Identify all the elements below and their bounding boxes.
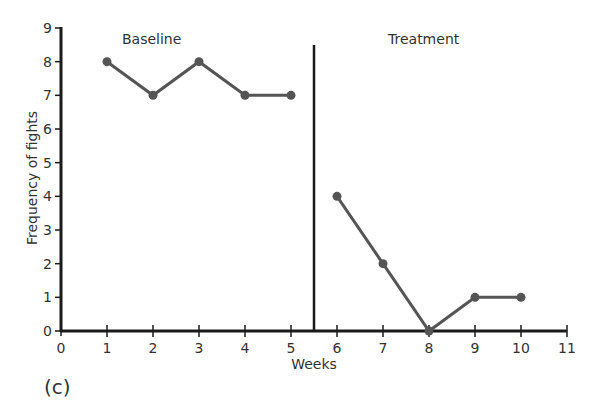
data-point-marker xyxy=(287,91,296,100)
x-tick-label: 10 xyxy=(512,340,530,356)
treatment-phase-label: Treatment xyxy=(387,31,460,47)
y-tick-label: 6 xyxy=(43,121,52,137)
y-axis-ticks: 0123456789 xyxy=(43,20,61,339)
data-point-marker xyxy=(195,57,204,66)
y-tick-label: 9 xyxy=(43,20,52,36)
x-tick-label: 8 xyxy=(425,340,434,356)
y-tick-label: 4 xyxy=(43,188,52,204)
single-case-design-chart: 0123456789 01234567891011 Baseline Treat… xyxy=(0,0,597,420)
x-axis-title: Weeks xyxy=(291,356,337,372)
y-tick-label: 8 xyxy=(43,54,52,70)
series-line-baseline xyxy=(107,62,291,96)
data-point-marker xyxy=(103,57,112,66)
data-point-marker xyxy=(241,91,250,100)
y-tick-label: 1 xyxy=(43,289,52,305)
x-tick-label: 1 xyxy=(103,340,112,356)
y-tick-label: 5 xyxy=(43,155,52,171)
data-point-marker xyxy=(425,327,434,336)
data-point-marker xyxy=(149,91,158,100)
y-tick-label: 2 xyxy=(43,256,52,272)
x-tick-label: 9 xyxy=(471,340,480,356)
x-tick-label: 2 xyxy=(149,340,158,356)
x-tick-label: 6 xyxy=(333,340,342,356)
x-tick-label: 11 xyxy=(558,340,576,356)
data-point-marker xyxy=(471,293,480,302)
series-line-treatment xyxy=(337,196,521,331)
x-tick-label: 7 xyxy=(379,340,388,356)
y-tick-label: 3 xyxy=(43,222,52,238)
data-point-marker xyxy=(517,293,526,302)
data-point-marker xyxy=(333,192,342,201)
data-point-marker xyxy=(379,259,388,268)
x-tick-label: 4 xyxy=(241,340,250,356)
baseline-phase-label: Baseline xyxy=(122,31,181,47)
y-tick-label: 0 xyxy=(43,323,52,339)
y-tick-label: 7 xyxy=(43,87,52,103)
x-tick-label: 3 xyxy=(195,340,204,356)
panel-label: (c) xyxy=(44,375,71,399)
y-axis-title: Frequency of fights xyxy=(24,111,40,245)
x-tick-label: 5 xyxy=(287,340,296,356)
x-tick-label: 0 xyxy=(57,340,66,356)
